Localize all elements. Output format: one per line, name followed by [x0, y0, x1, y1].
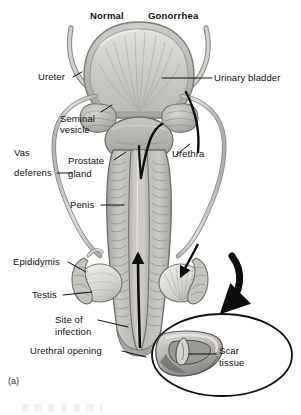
label-site-of-infection-line2: infection [55, 326, 91, 337]
label-testis: Testis [32, 289, 57, 300]
label-urinary-bladder: Urinary bladder [214, 72, 280, 83]
label-vas-deferens-line2: deferens [14, 167, 52, 178]
figure-male-reproductive-gonorrhea: Normal Gonorrhea Ureter Urinary bladder … [0, 0, 301, 415]
label-ureter: Ureter [38, 71, 65, 82]
label-site-of-infection-line1: Site of [55, 314, 83, 325]
panel-title-gonorrhea: Gonorrhea [148, 10, 198, 21]
label-seminal-vesicle-line1: Seminal [60, 113, 95, 124]
figure-caption-marker: (a) [8, 376, 19, 386]
label-scar-tissue-line2: tissue [219, 357, 244, 368]
label-urethral-opening: Urethral opening [30, 345, 102, 356]
label-epididymis: Epididymis [13, 256, 60, 267]
label-prostate-gland-line2: gland [68, 168, 92, 179]
label-vas-deferens-line1: Vas [14, 147, 30, 158]
panel-title-normal: Normal [90, 10, 124, 21]
cropped-caption-fragment [22, 404, 102, 412]
label-penis: Penis [70, 199, 94, 210]
label-urethra: Urethra [172, 148, 204, 159]
label-scar-tissue-line1: Scar [219, 345, 239, 356]
label-prostate-gland-line1: Prostate [68, 155, 104, 166]
label-seminal-vesicle-line2: vesicle [60, 124, 90, 135]
